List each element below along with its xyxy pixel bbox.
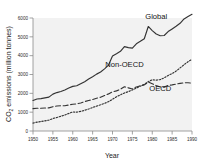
plot-area-background [33,18,192,131]
y-tick-label: 0 [25,129,28,134]
series-label-global: Global [145,12,167,21]
y-tick-label: 4000 [18,53,29,58]
series-label-non-oecd: Non-OECD [105,60,144,69]
x-tick-labels: 195019551960196519701975198019851990 [28,137,198,142]
y-tick-label: 1000 [18,110,29,115]
x-tick-label: 1985 [167,137,178,142]
x-tick-label: 1980 [147,137,158,142]
co2-emissions-line-chart: 0100020003000400050006000 19501955196019… [0,0,209,168]
y-tick-label: 6000 [18,16,29,21]
y-tick-label: 2000 [18,91,29,96]
y-axis-title-prefix: CO [5,111,12,122]
series-label-oecd: OECD [149,84,171,93]
x-tick-label: 1990 [187,137,198,142]
x-tick-label: 1950 [28,137,39,142]
x-tick-label: 1975 [127,137,138,142]
x-tick-label: 1955 [48,137,59,142]
x-tick-label: 1970 [107,137,118,142]
y-axis-title-suffix: emissions (million tonnes) [5,26,13,108]
x-axis-title: Year [105,152,120,159]
x-tick-label: 1965 [88,137,99,142]
y-tick-label: 5000 [18,35,29,40]
x-tick-label: 1960 [68,137,79,142]
chart-figure: 0100020003000400050006000 19501955196019… [0,0,209,168]
y-tick-label: 3000 [18,72,29,77]
